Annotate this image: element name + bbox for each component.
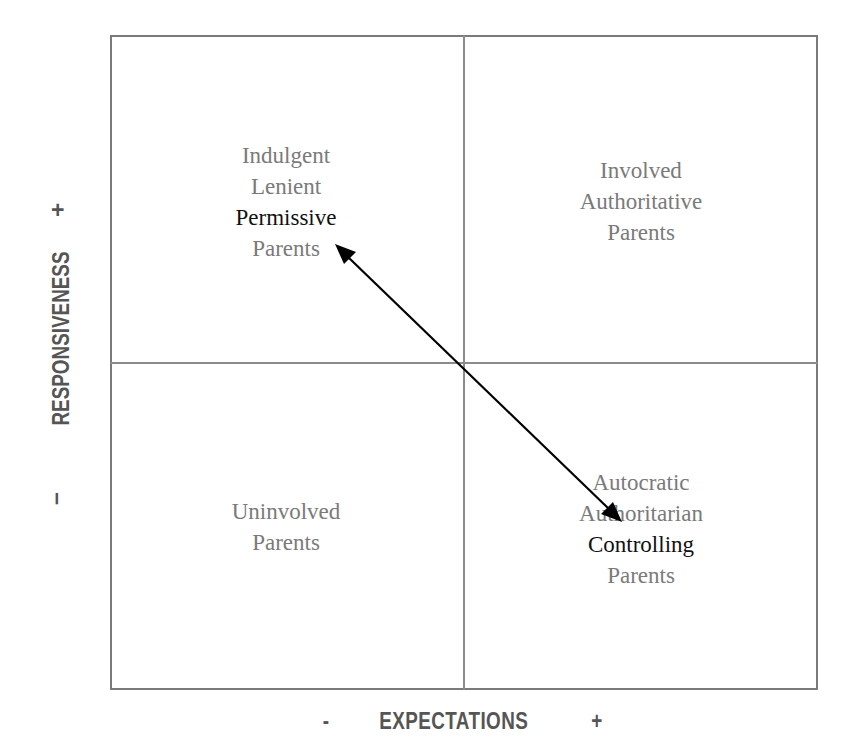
y-axis-minus: – (42, 492, 69, 505)
y-axis-plus: + (51, 197, 64, 224)
double-arrow-icon (0, 0, 858, 745)
x-axis-label: EXPECTATIONS (379, 708, 528, 735)
x-axis: - EXPECTATIONS + (0, 692, 858, 742)
y-axis: + RESPONSIVENESS – (35, 195, 85, 525)
y-axis-label: RESPONSIVENESS (48, 252, 75, 426)
x-axis-minus: - (323, 708, 330, 735)
x-axis-plus: + (591, 708, 602, 735)
